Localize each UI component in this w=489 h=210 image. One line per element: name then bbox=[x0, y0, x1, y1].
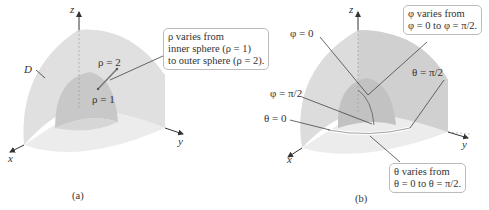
caption-a: (a) bbox=[72, 190, 84, 201]
theta-callout-line2: θ = 0 to θ = π/2. bbox=[394, 178, 461, 190]
rho-callout: ρ varies from inner sphere (ρ = 1) to ou… bbox=[163, 28, 269, 70]
x-axis-label: x bbox=[7, 152, 13, 164]
region-d-label: D bbox=[23, 63, 32, 75]
b-y-axis-label: y bbox=[461, 138, 467, 150]
x-axis bbox=[10, 145, 24, 152]
panel-a-figure bbox=[10, 12, 183, 152]
rho-1-label: ρ = 1 bbox=[92, 93, 115, 105]
theta-0-label: θ = 0 bbox=[264, 112, 287, 124]
phi-callout-line1: φ varies from bbox=[408, 8, 477, 20]
phi-0-label: φ = 0 bbox=[290, 27, 314, 39]
phi-half-pi-label: φ = π/2 bbox=[270, 87, 302, 99]
theta-callout-line1: θ varies from bbox=[394, 166, 461, 178]
caption-b: (b) bbox=[355, 193, 367, 204]
phi-callout: φ varies from φ = 0 to φ = π/2. bbox=[403, 5, 482, 35]
phi-callout-line2: φ = 0 to φ = π/2. bbox=[408, 20, 477, 32]
rho-callout-line2: inner sphere (ρ = 1) bbox=[168, 43, 264, 55]
theta-half-pi-label: θ = π/2 bbox=[412, 66, 443, 78]
rho-callout-line1: ρ varies from bbox=[168, 31, 264, 43]
rho-2-label: ρ = 2 bbox=[98, 56, 121, 68]
b-x-axis-label: x bbox=[286, 153, 292, 165]
y-axis-label: y bbox=[177, 135, 183, 147]
z-axis-label: z bbox=[69, 3, 75, 15]
theta-callout: θ varies from θ = 0 to θ = π/2. bbox=[389, 163, 466, 193]
b-z-axis-label: z bbox=[348, 3, 354, 15]
y-axis bbox=[165, 128, 183, 134]
rho-callout-line3: to outer sphere (ρ = 2). bbox=[168, 55, 264, 67]
